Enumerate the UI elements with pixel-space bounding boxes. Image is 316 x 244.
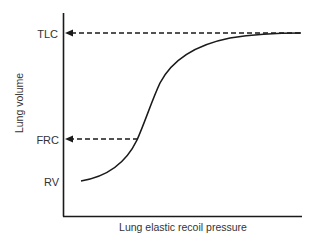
tlc-label: TLC [37, 28, 58, 40]
pressure-volume-diagram: TLC FRC RV Lung volume Lung elastic reco… [0, 0, 316, 244]
tlc-arrowhead-icon [65, 30, 73, 37]
frc-label: FRC [36, 134, 59, 146]
y-axis-label: Lung volume [13, 73, 25, 133]
pressure-volume-curve [81, 33, 301, 181]
x-axis-label: Lung elastic recoil pressure [119, 221, 247, 233]
frc-arrowhead-icon [65, 136, 73, 143]
diagram-canvas: TLC FRC RV Lung volume Lung elastic reco… [0, 0, 316, 244]
rv-label: RV [44, 176, 60, 188]
